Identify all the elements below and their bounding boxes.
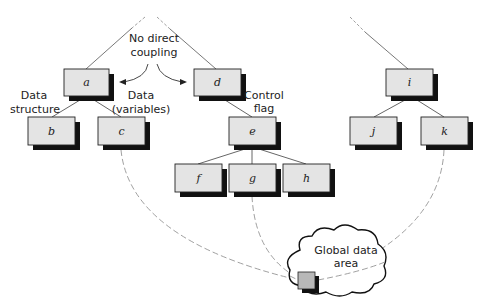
data-variables-label: Data — [128, 89, 154, 102]
control-flag-label: Control — [244, 89, 284, 102]
node-e: e — [229, 117, 281, 150]
node-f: f — [175, 164, 227, 197]
data-structure-label-2: structure — [10, 103, 60, 116]
global-data-store-icon — [298, 272, 315, 289]
node-c: c — [98, 117, 150, 150]
control-flag-label-2: flag — [254, 102, 275, 115]
data-structure-label: Data — [21, 89, 47, 102]
no-coupling-arrows — [124, 64, 182, 82]
node-g: g — [229, 164, 281, 197]
node-k: k — [421, 117, 473, 150]
node-label: d — [214, 76, 221, 89]
arrowhead-right-icon — [180, 79, 187, 85]
no-direct-coupling-label: No direct — [129, 32, 180, 45]
node-label: b — [48, 125, 55, 138]
arrowhead-left-icon — [119, 79, 126, 85]
global-data-links — [121, 150, 444, 280]
node-b: b — [28, 117, 80, 150]
node-label: g — [249, 172, 256, 185]
node-label: c — [118, 125, 124, 138]
node-h: h — [283, 164, 335, 197]
node-label: i — [408, 76, 412, 89]
data-variables-label-2: (variables) — [112, 103, 171, 116]
node-j: j — [350, 117, 402, 150]
no-direct-coupling-label-2: coupling — [131, 46, 178, 59]
global-data-area-label: Global data — [314, 244, 377, 257]
node-d: d — [194, 69, 246, 101]
node-i: i — [386, 69, 438, 101]
node-label: a — [83, 76, 90, 89]
node-a: a — [64, 69, 114, 101]
global-data-area-label-2: area — [334, 257, 359, 270]
node-label: h — [303, 172, 310, 185]
node-label: k — [441, 125, 448, 138]
coupling-diagram: a b c d e f g h i j — [0, 0, 485, 298]
node-label: e — [249, 125, 256, 138]
